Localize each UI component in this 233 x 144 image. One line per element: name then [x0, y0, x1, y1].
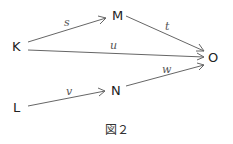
edge-label-t: t: [165, 20, 170, 33]
figure-caption: 図２: [105, 123, 129, 137]
edge-label-v: v: [66, 85, 73, 98]
edge-k-m: s: [28, 16, 106, 42]
edge-k-o: u: [28, 39, 204, 60]
diagram-canvas: s t u v w K M O L N 図２: [0, 0, 233, 144]
graph-svg: s t u v w K M O L N 図２: [0, 0, 233, 144]
edge-label-u: u: [110, 39, 117, 52]
node-n: N: [111, 83, 121, 98]
node-l: L: [13, 100, 21, 115]
node-k: K: [12, 39, 21, 54]
edge-n-o: w: [126, 63, 204, 86]
edge-m-o: t: [126, 16, 204, 51]
node-m: M: [112, 8, 123, 23]
edge-label-s: s: [64, 16, 70, 29]
edge-label-w: w: [162, 63, 172, 76]
node-o: O: [208, 50, 218, 65]
edge-l-n: v: [28, 85, 105, 106]
